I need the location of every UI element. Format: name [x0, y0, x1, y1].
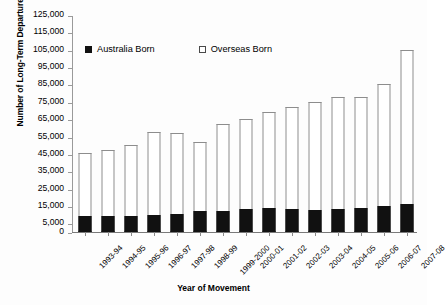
y-axis-tick-mark — [68, 224, 72, 225]
bar-segment-australia-born[interactable] — [331, 209, 344, 232]
stacked-bar[interactable] — [170, 133, 183, 232]
x-axis-tick-mark — [361, 232, 362, 236]
stacked-bar[interactable] — [216, 124, 229, 232]
x-axis-tick-label: 1993-94 — [97, 243, 124, 270]
x-axis-title: Year of Movement — [0, 283, 427, 293]
y-axis-tick-label: 5,000 — [42, 217, 64, 227]
bar-segment-overseas-born[interactable] — [331, 97, 344, 210]
y-axis-tick-mark — [68, 103, 72, 104]
stacked-bar[interactable] — [331, 97, 344, 232]
y-axis-tick-label: 125,000 — [33, 9, 64, 19]
y-axis-tick-label: 65,000 — [38, 113, 64, 123]
bar-segment-australia-born[interactable] — [262, 208, 275, 232]
y-axis-title: Number of Long-Term Departures — [15, 0, 25, 150]
bar-segment-australia-born[interactable] — [216, 211, 229, 232]
y-axis-tick-mark — [68, 233, 72, 234]
stacked-bar[interactable] — [400, 50, 413, 232]
bar-segment-overseas-born[interactable] — [400, 50, 413, 205]
y-axis-tick-label: 55,000 — [38, 131, 64, 141]
x-axis-tick-mark — [200, 232, 201, 236]
legend-label-overseas-born: Overseas Born — [211, 44, 272, 54]
x-axis-tick-label: 2004-05 — [350, 243, 377, 270]
bar-segment-australia-born[interactable] — [308, 210, 321, 232]
bar-segment-overseas-born[interactable] — [377, 84, 390, 206]
y-axis-tick-label: 95,000 — [38, 61, 64, 71]
bar-segment-overseas-born[interactable] — [78, 153, 91, 216]
chart-legend: Australia Born Overseas Born — [85, 44, 272, 54]
legend-item-overseas-born: Overseas Born — [199, 44, 272, 54]
legend-swatch-hollow-square-icon — [199, 46, 206, 53]
y-axis-tick-label: 15,000 — [38, 200, 64, 210]
stacked-bar[interactable] — [285, 107, 298, 232]
bar-slot — [349, 16, 372, 232]
y-axis-tick-mark — [68, 138, 72, 139]
x-axis-tick-label: 2003-04 — [327, 243, 354, 270]
bar-segment-australia-born[interactable] — [354, 208, 367, 232]
legend-swatch-filled-square-icon — [85, 46, 92, 53]
x-axis-tick-label: 1996-97 — [166, 243, 193, 270]
bar-segment-overseas-born[interactable] — [239, 119, 252, 208]
x-axis-tick-mark — [246, 232, 247, 236]
x-axis-line — [72, 232, 417, 233]
bar-segment-overseas-born[interactable] — [147, 132, 160, 214]
x-axis-tick-label: 2006-07 — [396, 243, 423, 270]
bar-segment-overseas-born[interactable] — [170, 133, 183, 214]
legend-item-australia-born: Australia Born — [85, 44, 155, 54]
bar-slot — [326, 16, 349, 232]
y-axis-tick-mark — [68, 85, 72, 86]
bar-segment-overseas-born[interactable] — [124, 145, 137, 215]
stacked-bar[interactable] — [262, 112, 275, 232]
bar-segment-australia-born[interactable] — [78, 216, 91, 232]
y-axis-tick-mark — [68, 190, 72, 191]
y-axis-tick-label: 35,000 — [38, 165, 64, 175]
bar-slot — [303, 16, 326, 232]
y-axis-tick-mark — [68, 16, 72, 17]
bar-segment-overseas-born[interactable] — [308, 102, 321, 211]
stacked-bar[interactable] — [78, 153, 91, 232]
bar-segment-overseas-born[interactable] — [262, 112, 275, 207]
x-axis-tick-mark — [85, 232, 86, 236]
x-axis-tick-label: 2005-06 — [373, 243, 400, 270]
x-axis-tick-mark — [269, 232, 270, 236]
x-axis-tick-mark — [177, 232, 178, 236]
bar-segment-australia-born[interactable] — [400, 204, 413, 232]
x-axis-tick-mark — [154, 232, 155, 236]
bar-segment-australia-born[interactable] — [377, 206, 390, 232]
y-axis-tick-mark — [68, 155, 72, 156]
x-axis-tick-mark — [407, 232, 408, 236]
bar-slot — [372, 16, 395, 232]
y-axis-tick-label: 25,000 — [38, 183, 64, 193]
stacked-bar[interactable] — [308, 102, 321, 232]
bar-slot — [280, 16, 303, 232]
stacked-bar[interactable] — [124, 145, 137, 232]
bar-segment-overseas-born[interactable] — [216, 124, 229, 212]
x-axis-tick-mark — [223, 232, 224, 236]
bar-slot — [395, 16, 418, 232]
bar-segment-overseas-born[interactable] — [354, 97, 367, 208]
y-axis-tick-mark — [68, 51, 72, 52]
x-axis-tick-label: 2002-03 — [304, 243, 331, 270]
x-axis-tick-mark — [108, 232, 109, 236]
bar-segment-overseas-born[interactable] — [193, 142, 206, 211]
stacked-bar[interactable] — [377, 84, 390, 232]
bar-segment-australia-born[interactable] — [170, 214, 183, 232]
stacked-bar[interactable] — [147, 132, 160, 232]
bar-segment-australia-born[interactable] — [239, 209, 252, 232]
stacked-bar[interactable] — [193, 142, 206, 232]
stacked-bar[interactable] — [354, 97, 367, 232]
bar-segment-overseas-born[interactable] — [101, 150, 114, 216]
y-axis-tick-label: 45,000 — [38, 148, 64, 158]
stacked-bar[interactable] — [239, 119, 252, 232]
bar-segment-overseas-born[interactable] — [285, 107, 298, 209]
x-axis-tick-label: 1998-99 — [212, 243, 239, 270]
bar-segment-australia-born[interactable] — [124, 216, 137, 232]
x-axis-tick-label: 1994-95 — [120, 243, 147, 270]
bar-segment-australia-born[interactable] — [101, 216, 114, 232]
stacked-bar[interactable] — [101, 150, 114, 232]
bar-segment-australia-born[interactable] — [285, 209, 298, 232]
y-axis-tick-label: 85,000 — [38, 78, 64, 88]
bar-segment-australia-born[interactable] — [193, 211, 206, 232]
bar-segment-australia-born[interactable] — [147, 215, 160, 232]
x-axis-tick-label: 2001-02 — [281, 243, 308, 270]
